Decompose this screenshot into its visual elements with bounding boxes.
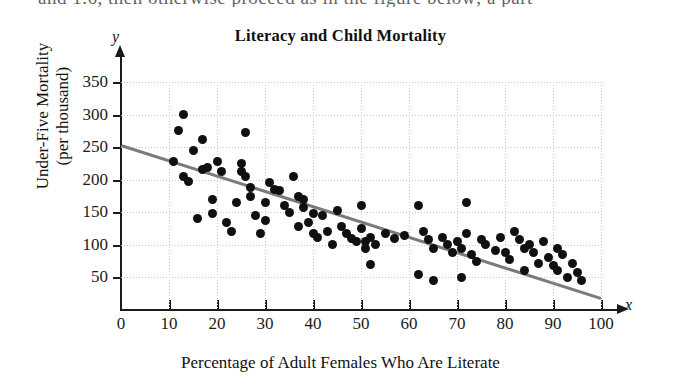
y-axis-tick-label: 300 — [62, 105, 108, 125]
scatter-point — [577, 276, 586, 285]
y-axis-label-line1: Under-Five Mortality — [33, 43, 52, 190]
figure-container: and 1.6, then otherwise proceed as in th… — [0, 0, 681, 391]
x-axis-label: Percentage of Adult Females Who Are Lite… — [0, 353, 681, 373]
scatter-point — [285, 208, 294, 217]
gridline-vertical — [361, 82, 362, 310]
y-axis-tick-label: 50 — [62, 267, 108, 287]
scatter-point — [496, 233, 505, 242]
gridline-vertical — [505, 82, 506, 310]
scatter-point — [333, 206, 342, 215]
x-axis-tick-label: 80 — [485, 314, 525, 334]
scatter-point — [539, 237, 548, 246]
scatter-point — [429, 244, 438, 253]
scatter-point — [563, 273, 572, 282]
scatter-point — [414, 201, 423, 210]
scatter-point — [472, 257, 481, 266]
gridline-vertical — [217, 82, 218, 310]
scatter-point — [184, 177, 193, 186]
scatter-point — [568, 259, 577, 268]
x-axis-tick-label: 90 — [533, 314, 573, 334]
gridline-vertical — [553, 82, 554, 310]
scatter-point — [313, 233, 322, 242]
x-axis-tick-label: 40 — [293, 314, 333, 334]
scatter-point — [294, 222, 303, 231]
scatter-point — [357, 201, 366, 210]
scatter-point — [174, 126, 183, 135]
plot-area — [121, 82, 601, 310]
x-axis-tick-label: 0 — [101, 314, 141, 334]
scatter-point — [357, 224, 366, 233]
scatter-point — [462, 229, 471, 238]
scatter-point — [256, 229, 265, 238]
scatter-point — [251, 211, 260, 220]
scatter-point — [304, 218, 313, 227]
scatter-point — [299, 203, 308, 212]
scatter-point — [448, 248, 457, 257]
scatter-point — [213, 157, 222, 166]
y-axis-tick-label: 150 — [62, 202, 108, 222]
scatter-point — [515, 235, 524, 244]
scatter-point — [241, 128, 250, 137]
y-axis-tick-label: 200 — [62, 170, 108, 190]
scatter-point — [529, 248, 538, 257]
y-axis-arrow-icon — [115, 45, 125, 57]
x-axis-tick-label: 100 — [581, 314, 621, 334]
scatter-point — [505, 255, 514, 264]
scatter-point — [232, 198, 241, 207]
scatter-point — [457, 273, 466, 282]
scatter-point — [457, 244, 466, 253]
scatter-point — [400, 231, 409, 240]
scatter-point — [222, 218, 231, 227]
gridline-vertical — [313, 82, 314, 310]
scatter-point — [208, 195, 217, 204]
x-axis-tick-label: 10 — [149, 314, 189, 334]
page-bleed-text: and 1.6, then otherwise proceed as in th… — [38, 0, 648, 7]
gridline-vertical — [265, 82, 266, 310]
scatter-point — [318, 211, 327, 220]
scatter-point — [558, 250, 567, 259]
scatter-point — [246, 183, 255, 192]
scatter-point — [424, 235, 433, 244]
scatter-point — [381, 229, 390, 238]
scatter-point — [309, 209, 318, 218]
scatter-point — [361, 244, 370, 253]
scatter-point — [491, 246, 500, 255]
scatter-point — [429, 276, 438, 285]
gridline-vertical — [409, 82, 410, 310]
x-axis-tick-label: 50 — [341, 314, 381, 334]
scatter-point — [208, 209, 217, 218]
scatter-point — [203, 163, 212, 172]
scatter-point — [534, 259, 543, 268]
scatter-point — [462, 198, 471, 207]
y-axis-tick-label: 250 — [62, 137, 108, 157]
chart-title: Literacy and Child Mortality — [0, 26, 681, 46]
scatter-point — [179, 110, 188, 119]
scatter-point — [371, 240, 380, 249]
scatter-point — [261, 216, 270, 225]
x-axis-tick-label: 60 — [389, 314, 429, 334]
x-axis-arrow-icon — [617, 304, 629, 314]
scatter-point — [328, 240, 337, 249]
scatter-point — [227, 227, 236, 236]
gridline-vertical — [169, 82, 170, 310]
scatter-point — [275, 186, 284, 195]
scatter-point — [366, 260, 375, 269]
scatter-point — [390, 234, 399, 243]
x-axis-tick-label: 20 — [197, 314, 237, 334]
scatter-point — [193, 214, 202, 223]
scatter-point — [414, 270, 423, 279]
scatter-point — [553, 266, 562, 275]
y-axis-tick-label: 100 — [62, 235, 108, 255]
x-axis-tick-label: 30 — [245, 314, 285, 334]
scatter-point — [217, 167, 226, 176]
x-axis-tick-label: 70 — [437, 314, 477, 334]
scatter-point — [352, 237, 361, 246]
y-axis-letter: y — [112, 28, 119, 46]
scatter-point — [323, 227, 332, 236]
y-axis-tick-label: 350 — [62, 72, 108, 92]
scatter-point — [261, 198, 270, 207]
scatter-point — [246, 192, 255, 201]
scatter-point — [481, 240, 490, 249]
scatter-point — [198, 135, 207, 144]
gridline-vertical — [601, 82, 602, 310]
